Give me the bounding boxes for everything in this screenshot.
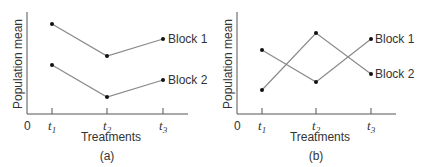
panel-b: Block 1 Block 2 0 t1 t2 t3 Treatments Po… (221, 12, 415, 163)
y-axis-label: Population mean (11, 19, 25, 109)
series-block-2 (52, 65, 163, 97)
data-point (369, 37, 373, 41)
tick-label-t1: t1 (48, 118, 56, 135)
data-point (161, 78, 165, 82)
data-point (314, 31, 318, 35)
data-point (260, 88, 264, 92)
tick-label-t1: t1 (258, 118, 266, 135)
data-point (105, 95, 109, 99)
panel-caption: (a) (100, 149, 115, 163)
data-point (260, 48, 264, 52)
legend-block-2: Block 2 (168, 73, 208, 87)
series-block-1 (52, 24, 163, 56)
data-point (50, 22, 54, 26)
x-axis-label: Treatments (290, 130, 350, 144)
series-line-2 (262, 39, 371, 82)
legend-block-1: Block 1 (168, 32, 208, 46)
legend-block-1: Block 1 (375, 32, 415, 46)
figure: Block 1 Block 2 0 t1 t2 t3 Treatments Po… (0, 0, 421, 167)
origin-label: 0 (24, 119, 31, 133)
tick-label-t3: t3 (367, 118, 376, 135)
origin-label: 0 (234, 119, 241, 133)
legend-block-2: Block 2 (375, 67, 415, 81)
x-axis-label: Treatments (81, 130, 141, 144)
data-point (314, 80, 318, 84)
y-axis-label: Population mean (221, 19, 235, 109)
tick-label-t3: t3 (159, 118, 168, 135)
data-point (369, 72, 373, 76)
panel-a: Block 1 Block 2 0 t1 t2 t3 Treatments Po… (11, 12, 208, 163)
panel-caption: (b) (309, 149, 324, 163)
data-point (161, 37, 165, 41)
data-point (50, 63, 54, 67)
data-point (105, 54, 109, 58)
